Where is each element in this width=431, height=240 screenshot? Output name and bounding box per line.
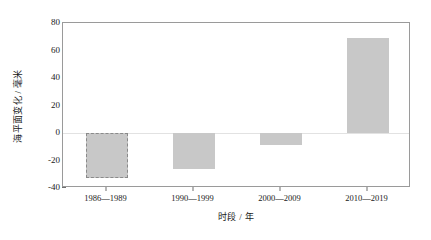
chart-figure: 海平面变化 / 毫米 806040200-20-40 1986—19891990…: [0, 0, 431, 240]
x-tick-label: 2000—2009: [258, 193, 301, 203]
x-tick-mark: [366, 187, 367, 191]
bar-2000-2009: [260, 133, 302, 145]
x-tick-label: 2010—2019: [345, 193, 388, 203]
y-axis-tick-marks: [22, 22, 66, 187]
x-tick-label: 1990—1999: [171, 193, 214, 203]
bar-2010-2019: [347, 38, 389, 133]
x-axis-title: 时段 / 年: [62, 210, 410, 223]
x-tick-mark: [105, 187, 106, 191]
x-tick-mark: [192, 187, 193, 191]
plot-area: [62, 22, 410, 187]
bar-1990-1999: [173, 133, 215, 169]
bar-1986-1989: [86, 133, 128, 178]
x-tick-mark: [279, 187, 280, 191]
x-tick-label: 1986—1989: [84, 193, 127, 203]
